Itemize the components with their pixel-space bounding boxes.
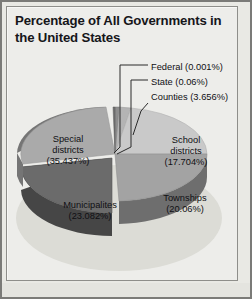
- slice-label-townships: Townships (20.06%): [149, 193, 221, 215]
- slice-label-special-districts-line3: (35.437%): [31, 156, 105, 167]
- slice-label-school-districts-line3: (17.704%): [155, 157, 217, 168]
- slice-label-special-districts-line1: Special: [31, 134, 105, 145]
- slice-label-school-districts: School districts (17.704%): [155, 135, 217, 169]
- slice-label-municipalites: Municipalites (23.082%): [45, 200, 135, 222]
- slice-label-municipalites-line1: Municipalites: [45, 200, 135, 211]
- slice-label-federal: Federal (0.001%): [151, 62, 223, 73]
- chart-screenshot: Percentage of All Governments in the Uni…: [0, 0, 252, 299]
- slice-label-counties: Counties (3.656%): [151, 92, 228, 103]
- slice-label-special-districts-line2: districts: [31, 145, 105, 156]
- slice-label-state: State (0.06%): [151, 77, 208, 88]
- slice-label-municipalites-line2: (23.082%): [45, 211, 135, 222]
- slice-label-townships-line1: Townships: [149, 193, 221, 204]
- slice-label-special-districts: Special districts (35.437%): [31, 134, 105, 168]
- chart-stage: Federal (0.001%) State (0.06%) Counties …: [7, 7, 237, 280]
- slice-label-school-districts-line2: districts: [155, 146, 217, 157]
- slice-label-townships-line2: (20.06%): [149, 204, 221, 215]
- slice-label-school-districts-line1: School: [155, 135, 217, 146]
- bottom-strip: [2, 283, 250, 297]
